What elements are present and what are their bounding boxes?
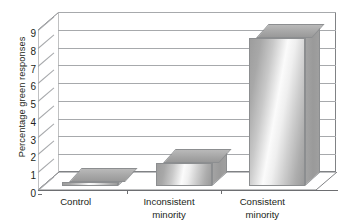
bar xyxy=(62,182,118,186)
y-tick-label: 6 xyxy=(22,82,36,92)
bar-top-face xyxy=(163,149,232,163)
plot-area xyxy=(38,12,338,190)
bar-front-face xyxy=(156,163,212,186)
x-axis-label-line: Consistent xyxy=(216,196,309,209)
x-axis-label: Inconsistentminority xyxy=(122,196,215,221)
bar-side-face xyxy=(305,25,320,186)
x-tick-mark xyxy=(127,190,128,194)
x-axis-label: Consistentminority xyxy=(216,196,309,221)
y-tick-label: 5 xyxy=(22,100,36,110)
x-axis-label-line: minority xyxy=(122,209,215,222)
x-axis-label-line: minority xyxy=(216,209,309,222)
y-tick-label: 1 xyxy=(22,171,36,181)
y-axis-ticks: 0123456789 xyxy=(22,14,36,186)
y-tick-label: 7 xyxy=(22,65,36,75)
x-axis-labels: ControlInconsistentminorityConsistentmin… xyxy=(38,196,338,224)
gridline xyxy=(58,12,336,13)
y-tick-label: 4 xyxy=(22,118,36,128)
x-axis-line xyxy=(38,190,338,191)
x-axis-label: Control xyxy=(29,196,122,209)
y-tick-label: 9 xyxy=(22,29,36,39)
x-axis-label-line: Inconsistent xyxy=(122,196,215,209)
y-tick-label: 8 xyxy=(22,47,36,57)
y-tick-label: 2 xyxy=(22,153,36,163)
x-axis-label-line: Control xyxy=(29,196,122,209)
y-tick-label: 3 xyxy=(22,136,36,146)
bar-chart: Percentage green responses 0123456789 Co… xyxy=(0,0,343,224)
bar-front-face xyxy=(249,38,305,186)
x-tick-mark xyxy=(221,190,222,194)
y-tick-mark xyxy=(38,194,42,195)
bar xyxy=(156,163,212,186)
bar xyxy=(249,38,305,186)
bar-front-face xyxy=(62,182,118,186)
